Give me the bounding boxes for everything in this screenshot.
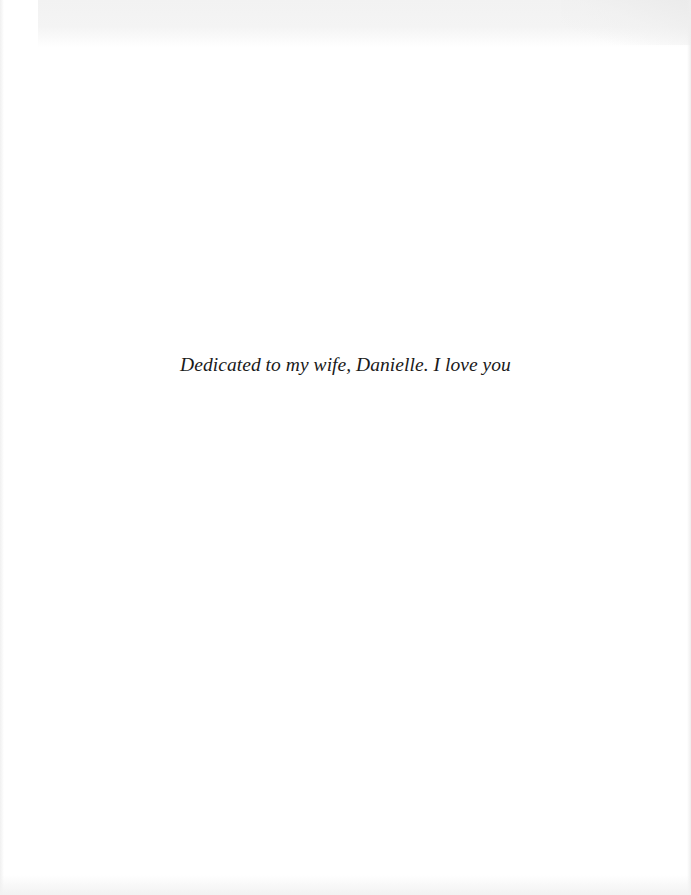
document-page: Dedicated to my wife, Danielle. I love y… bbox=[0, 0, 691, 895]
scan-shadow-left bbox=[0, 0, 4, 895]
scan-shadow-bottom bbox=[0, 875, 691, 895]
scan-shadow-right bbox=[687, 0, 691, 895]
scan-shadow-corner bbox=[561, 0, 691, 45]
dedication-text: Dedicated to my wife, Danielle. I love y… bbox=[0, 353, 691, 377]
